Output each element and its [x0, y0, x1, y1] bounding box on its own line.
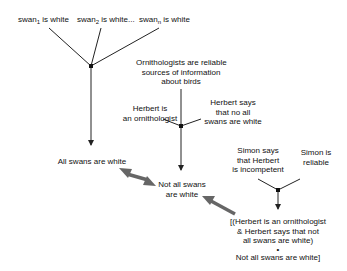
- node-line: Herbert is: [118, 104, 182, 114]
- premise-text: is white: [161, 15, 190, 24]
- node-not-all-swans-white: Not all swans are white: [154, 180, 210, 199]
- node-line: Not all swans: [154, 180, 210, 190]
- premise-swan-n: swann is white: [139, 15, 190, 25]
- node-line: [(Herbert is an ornithologist: [230, 217, 326, 227]
- rebuttal-double-arrow: [119, 168, 156, 186]
- premise-swan-1: swan1 is white: [18, 15, 69, 25]
- node-simon-reliable: Simon is reliable: [296, 148, 336, 167]
- node-line: Herbert says: [199, 98, 267, 108]
- premise-ellipsis: ...: [128, 15, 135, 25]
- node-simon-says: Simon says that Herbert is incompetent: [230, 146, 286, 175]
- bullet-separator: •: [230, 246, 326, 253]
- node-line: are white: [154, 190, 210, 200]
- induction-tree: [49, 28, 159, 145]
- node-line: Ornithologists are reliable: [136, 58, 226, 68]
- node-line: Not all swans are white]: [230, 253, 326, 263]
- node-line: is incompetent: [230, 165, 286, 175]
- undercutter-tree: [258, 179, 300, 209]
- premise-text: swan: [139, 15, 158, 24]
- node-all-swans-white: All swans are white: [56, 157, 128, 167]
- node-line: & Herbert says that not: [230, 227, 326, 237]
- node-herbert-is-ornithologist: Herbert is an ornithologist: [118, 104, 182, 123]
- junction-dot: [89, 64, 93, 68]
- node-line: All swans are white: [56, 157, 128, 167]
- junction-dot: [179, 124, 183, 128]
- node-line: that no all: [199, 108, 267, 118]
- node-line: Simon is: [296, 148, 336, 158]
- premise-text: swan: [18, 15, 37, 24]
- node-line: Simon says: [230, 146, 286, 156]
- node-line: sources of information: [136, 68, 226, 78]
- node-line: reliable: [296, 158, 336, 168]
- node-line: that Herbert: [230, 156, 286, 166]
- node-herbert-says: Herbert says that no all swans are white: [199, 98, 267, 127]
- node-line: about birds: [136, 77, 226, 87]
- node-undercutter-statement: [(Herbert is an ornithologist & Herbert …: [230, 217, 326, 262]
- premise-text: is white: [99, 15, 128, 24]
- node-line: an ornithologist: [118, 114, 182, 124]
- junction-dot: [276, 188, 280, 192]
- node-ornithologists-reliable: Ornithologists are reliable sources of i…: [136, 58, 226, 87]
- testimony-tree: [163, 89, 201, 170]
- node-line: swans are white: [199, 117, 267, 127]
- premise-swan-2: swan2 is white: [77, 15, 128, 25]
- premise-text: is white: [40, 15, 69, 24]
- premise-text: swan: [77, 15, 96, 24]
